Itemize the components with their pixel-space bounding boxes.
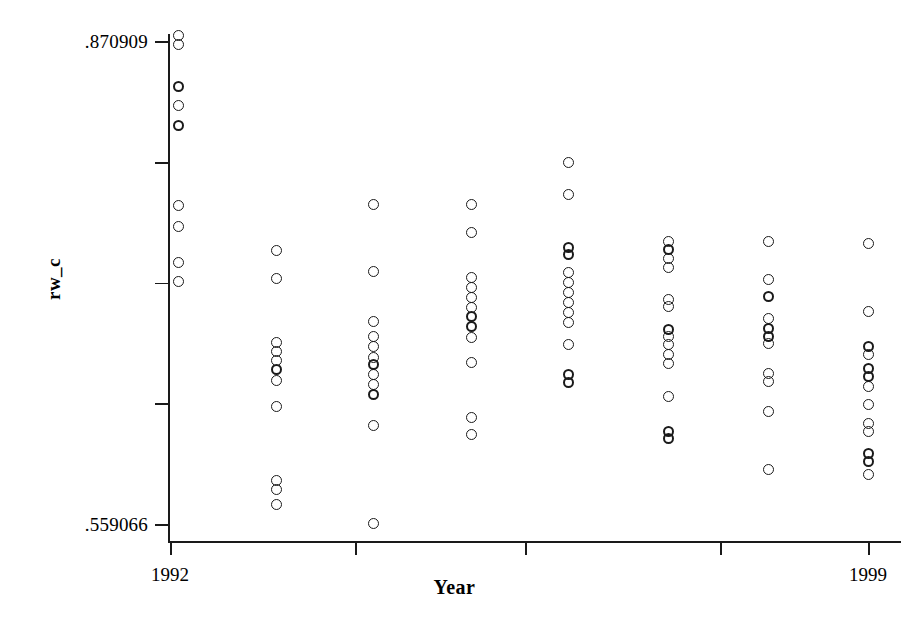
data-point: [271, 499, 282, 510]
data-point: [563, 339, 574, 350]
data-point: [863, 306, 874, 317]
data-point: [863, 349, 874, 360]
data-point: [368, 316, 379, 327]
data-point: [466, 357, 477, 368]
data-point: [173, 81, 184, 92]
data-point: [271, 375, 282, 386]
data-point: [173, 39, 184, 50]
data-point: [271, 273, 282, 284]
data-point: [173, 200, 184, 211]
data-point: [173, 100, 184, 111]
data-point: [763, 236, 774, 247]
data-point: [563, 377, 574, 388]
data-point: [863, 456, 874, 467]
data-point: [863, 469, 874, 480]
data-point: [763, 338, 774, 349]
scatter-plot: .559066.870909 19921999 rw_c Year: [0, 0, 909, 633]
data-point: [663, 358, 674, 369]
data-point: [763, 406, 774, 417]
data-point: [663, 433, 674, 444]
data-point: [863, 238, 874, 249]
data-point: [368, 266, 379, 277]
data-point: [563, 157, 574, 168]
data-point: [663, 301, 674, 312]
data-point: [368, 518, 379, 529]
data-point: [663, 262, 674, 273]
data-point: [863, 399, 874, 410]
data-point: [763, 376, 774, 387]
data-point: [563, 189, 574, 200]
data-point: [271, 401, 282, 412]
data-point: [563, 317, 574, 328]
data-point: [466, 199, 477, 210]
data-point: [763, 291, 774, 302]
data-point: [763, 274, 774, 285]
data-point: [863, 381, 874, 392]
data-point: [466, 412, 477, 423]
data-points-layer: [0, 0, 909, 633]
data-point: [271, 364, 282, 375]
data-point: [271, 245, 282, 256]
data-point: [271, 484, 282, 495]
data-point: [368, 420, 379, 431]
data-point: [173, 120, 184, 131]
data-point: [466, 332, 477, 343]
data-point: [368, 199, 379, 210]
data-point: [466, 227, 477, 238]
data-point: [663, 391, 674, 402]
data-point: [863, 426, 874, 437]
data-point: [763, 464, 774, 475]
data-point: [466, 429, 477, 440]
data-point: [173, 221, 184, 232]
data-point: [173, 276, 184, 287]
data-point: [368, 341, 379, 352]
data-point: [466, 321, 477, 332]
data-point: [563, 249, 574, 260]
data-point: [368, 389, 379, 400]
data-point: [173, 257, 184, 268]
